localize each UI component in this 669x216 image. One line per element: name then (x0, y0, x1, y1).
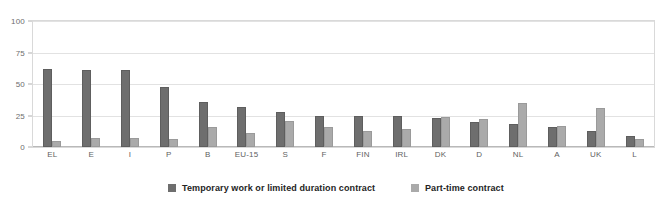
y-tick-label-100: 100 (11, 17, 25, 26)
y-axis: 0255075100 (0, 20, 32, 148)
x-tick-label-fin: FIN (356, 150, 370, 159)
bar-p-series1 (169, 139, 178, 147)
bar-irl-series1 (402, 129, 411, 147)
bar-el-series1 (52, 141, 61, 147)
x-tick-label-a: A (554, 150, 560, 159)
bar-fin-series1 (363, 131, 372, 147)
bar-group-l (615, 21, 654, 147)
legend-entry-part-time-contract: Part-time contract (411, 183, 504, 193)
bar-group-i (111, 21, 150, 147)
bar-e-series0 (82, 70, 91, 147)
bar-group-irl (382, 21, 421, 147)
bar-l-series0 (626, 136, 635, 147)
bar-i-series0 (121, 70, 130, 147)
bar-el-series0 (43, 69, 52, 147)
bar-a-series0 (548, 127, 557, 147)
legend-entry-temporary-contract: Temporary work or limited duration contr… (168, 183, 375, 193)
bar-group-eu-15 (227, 21, 266, 147)
bar-f-series0 (315, 116, 324, 148)
bar-uk-series1 (596, 108, 605, 147)
bar-group-p (149, 21, 188, 147)
bar-dk-series1 (441, 117, 450, 147)
x-tick-label-e: E (88, 150, 94, 159)
bar-d-series0 (470, 122, 479, 147)
x-tick-label-l: L (632, 150, 637, 159)
x-tick-label-p: P (166, 150, 172, 159)
y-tick-label-0: 0 (20, 143, 25, 152)
x-tick-label-dk: DK (435, 150, 447, 159)
bar-irl-series0 (393, 116, 402, 148)
bar-nl-series0 (509, 124, 518, 147)
x-tick-label-f: F (322, 150, 327, 159)
x-tick-label-el: EL (47, 150, 57, 159)
x-tick-label-i: I (129, 150, 131, 159)
x-tick-label-irl: IRL (395, 150, 408, 159)
bar-p-series0 (160, 87, 169, 147)
bar-b-series0 (199, 102, 208, 147)
bar-group-uk (576, 21, 615, 147)
bar-eu-15-series1 (246, 133, 255, 147)
bar-b-series1 (208, 127, 217, 147)
x-axis: ELEIPBEU-15SFFINIRLDKDNLAUKL (33, 150, 654, 166)
chart-legend: Temporary work or limited duration contr… (0, 183, 669, 199)
y-tick-label-50: 50 (16, 80, 25, 89)
bar-group-d (460, 21, 499, 147)
x-tick-label-uk: UK (590, 150, 602, 159)
bar-f-series1 (324, 127, 333, 147)
bar-d-series1 (479, 119, 488, 147)
legend-swatch-icon-1 (411, 184, 419, 192)
x-tick-label-s: S (283, 150, 289, 159)
x-tick-label-eu-15: EU-15 (235, 150, 259, 159)
bar-i-series1 (130, 138, 139, 147)
bar-l-series1 (635, 139, 644, 147)
bar-group-s (266, 21, 305, 147)
y-tick-label-75: 75 (16, 48, 25, 57)
y-tick-label-25: 25 (16, 111, 25, 120)
legend-label-1: Part-time contract (425, 183, 504, 193)
bar-s-series1 (285, 121, 294, 147)
bars-layer (33, 21, 654, 147)
bar-group-el (33, 21, 72, 147)
bar-group-a (538, 21, 577, 147)
legend-swatch-icon-0 (168, 184, 176, 192)
x-tick-label-b: B (205, 150, 211, 159)
bar-group-e (72, 21, 111, 147)
bar-dk-series0 (432, 118, 441, 147)
bar-group-b (188, 21, 227, 147)
x-tick-label-nl: NL (513, 150, 524, 159)
bar-eu-15-series0 (237, 107, 246, 147)
bar-group-fin (344, 21, 383, 147)
bar-group-f (305, 21, 344, 147)
bar-chart: 0255075100 ELEIPBEU-15SFFINIRLDKDNLAUKL … (0, 0, 669, 216)
bar-e-series1 (91, 138, 100, 147)
bar-fin-series0 (354, 116, 363, 148)
bar-s-series0 (276, 112, 285, 147)
bar-nl-series1 (518, 103, 527, 147)
bar-group-nl (499, 21, 538, 147)
bar-group-dk (421, 21, 460, 147)
x-tick-label-d: D (476, 150, 482, 159)
bar-a-series1 (557, 126, 566, 147)
legend-label-0: Temporary work or limited duration contr… (182, 183, 375, 193)
bar-uk-series0 (587, 131, 596, 147)
